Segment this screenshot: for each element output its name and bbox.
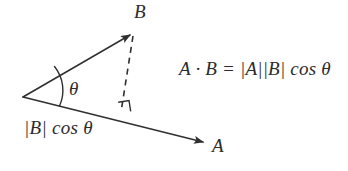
dot-product-formula: A · B = |A||B| cos θ [179,59,331,78]
projection-length-label: |B| cos θ [24,118,93,137]
angle-arc [55,67,63,107]
vector-diagram [0,0,348,171]
right-angle-marker [118,101,131,112]
vector-a-label: A [212,136,224,155]
vector-dot-product-figure: B A θ |B| cos θ A · B = |A||B| cos θ [0,0,348,171]
angle-theta-label: θ [69,79,78,98]
vector-b-label: B [134,2,146,21]
